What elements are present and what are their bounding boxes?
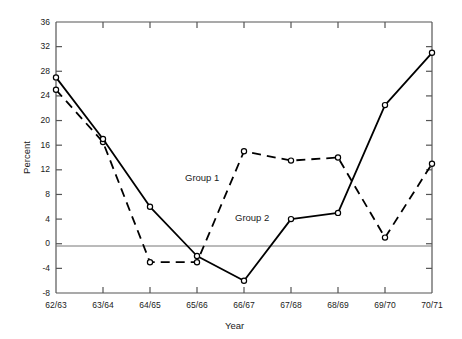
x-tick-label: 65/66 [172,300,222,310]
y-tick-label: 8 [20,189,50,199]
x-axis-title: Year [225,320,244,331]
chart-canvas [0,0,462,339]
x-tick-label: 67/68 [266,300,316,310]
x-tick-label: 63/64 [78,300,128,310]
series-1 [53,87,434,265]
data-point-marker [53,87,58,92]
y-axis-ticks [56,47,432,269]
x-tick-label: 64/65 [125,300,175,310]
data-point-marker [382,235,387,240]
series-2 [53,50,434,283]
data-point-marker [429,161,434,166]
chart-figure: -8-404812162024283236 62/6363/6464/6565/… [0,0,462,339]
data-point-marker [147,204,152,209]
data-point-marker [335,210,340,215]
y-tick-label: 0 [20,238,50,248]
y-tick-label: 4 [20,214,50,224]
data-point-marker [335,155,340,160]
y-tick-label: 28 [20,66,50,76]
y-tick-label: -4 [20,263,50,273]
data-point-marker [147,260,152,265]
y-tick-label: 36 [20,17,50,27]
data-point-marker [194,260,199,265]
y-axis-title: Percent [21,128,32,188]
data-point-marker [288,217,293,222]
data-point-marker [241,149,246,154]
plot-frame [56,22,432,293]
x-tick-label: 70/71 [407,300,457,310]
data-series-layer [53,50,434,283]
x-tick-label: 66/67 [219,300,269,310]
x-tick-label: 68/69 [313,300,363,310]
data-point-marker [429,50,434,55]
x-tick-label: 69/70 [360,300,410,310]
data-point-marker [53,75,58,80]
y-tick-label: -8 [20,288,50,298]
y-tick-label: 24 [20,90,50,100]
data-point-marker [241,278,246,283]
series-label-group-1: Group 1 [185,172,219,183]
y-tick-label: 20 [20,115,50,125]
data-point-marker [382,103,387,108]
data-point-marker [288,158,293,163]
x-tick-label: 62/63 [31,300,81,310]
data-point-marker [194,253,199,258]
y-tick-label: 32 [20,41,50,51]
data-point-marker [100,136,105,141]
series-label-group-2: Group 2 [235,212,269,223]
